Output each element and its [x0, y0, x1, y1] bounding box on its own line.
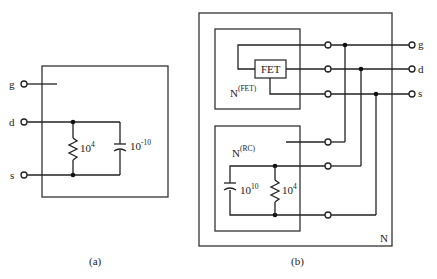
- gate-label-b: g: [418, 38, 424, 50]
- outer-network-label: N: [380, 232, 388, 244]
- caption-a: (a): [89, 255, 102, 268]
- circuit-diagram: g d s 104 10-10 (a) N N(FET) FET: [0, 0, 437, 279]
- source-label-a: s: [10, 169, 14, 181]
- outer-network-box: [199, 13, 392, 246]
- subfigure-a: g d s 104 10-10 (a): [9, 66, 168, 268]
- capacitor-value-b: 1010: [240, 182, 259, 196]
- fet-device-label: FET: [261, 63, 281, 75]
- drain-label-b: d: [418, 63, 424, 75]
- resistor-icon-a: [69, 138, 77, 160]
- resistor-value-b: 104: [282, 182, 297, 196]
- drain-terminal-a: [21, 119, 27, 125]
- caption-b: (b): [291, 255, 304, 268]
- fet-network-label: N(FET): [230, 84, 257, 99]
- gate-terminal-a: [21, 81, 27, 87]
- drain-label-a: d: [9, 116, 15, 128]
- gate-terminal-b: [409, 42, 415, 48]
- drain-terminal-b: [409, 66, 415, 72]
- subfigure-b: N N(FET) FET g d s N(RC): [199, 13, 424, 268]
- resistor-value-a: 104: [80, 140, 95, 154]
- fet-source-wire: [270, 78, 325, 94]
- source-terminal-a: [21, 172, 27, 178]
- source-label-b: s: [418, 87, 422, 99]
- fet-gate-wire: [238, 45, 325, 69]
- rc-network-label: N(RC): [232, 144, 255, 159]
- gate-label-a: g: [9, 78, 15, 90]
- capacitor-value-a: 10-10: [130, 138, 151, 152]
- source-terminal-b: [409, 91, 415, 97]
- network-box-a: [42, 66, 168, 197]
- resistor-icon-b: [271, 180, 279, 202]
